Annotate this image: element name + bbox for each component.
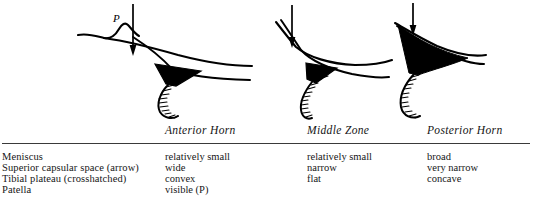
cell-meniscus-posterior: broad [427,151,451,162]
cell-meniscus-anterior: relatively small [165,151,230,162]
row-label-superior-capsular-space: Superior capsular space (arrow) [2,162,139,173]
anterior-horn-drawing: P [78,4,252,118]
column-header-middle-zone: Middle Zone [307,124,369,136]
table-row: Meniscus relatively small relatively sma… [0,151,534,162]
meniscus-shape [306,63,337,83]
cell-tibial-plateau-middle: flat [307,173,321,184]
cell-capsular-space-middle: narrow [307,162,337,173]
capsular-space-arrow-icon [130,4,137,56]
column-header-posterior-horn: Posterior Horn [427,124,503,136]
tibial-plateau-hatching [159,76,192,118]
cell-tibial-plateau-anterior: convex [165,173,195,184]
row-label-patella: Patella [2,184,31,195]
row-label-meniscus: Meniscus [2,151,43,162]
middle-zone-drawing [276,5,392,119]
posterior-horn-drawing [395,3,486,118]
femoral-condyle-line [104,38,252,66]
column-header-anterior-horn: Anterior Horn [165,124,236,136]
table-header-rule [2,143,530,144]
cell-patella-anterior: visible (P) [165,184,208,195]
patella-label: P [112,12,120,24]
table-row: Tibial plateau (crosshatched) convex fla… [0,173,534,184]
drawing-panel: P [0,0,534,125]
patella-contour [78,24,139,39]
cell-capsular-space-anterior: wide [165,162,185,173]
table-row: Superior capsular space (arrow) wide nar… [0,162,534,173]
cell-tibial-plateau-posterior: concave [427,173,461,184]
meniscus-shape [155,64,201,86]
cell-meniscus-middle: relatively small [307,151,372,162]
meniscus-comparison-figure: P [0,0,534,209]
comparison-table: Anterior Horn Middle Zone Posterior Horn… [0,124,534,209]
table-row: Patella visible (P) [0,184,534,195]
row-label-tibial-plateau: Tibial plateau (crosshatched) [2,173,126,184]
cell-capsular-space-posterior: very narrow [427,162,478,173]
femoral-condyle-line [276,22,392,65]
